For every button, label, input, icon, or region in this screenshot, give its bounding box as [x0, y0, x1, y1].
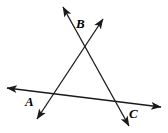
geometry-figure: A B C: [0, 0, 168, 133]
vertex-label-b: B: [76, 17, 85, 30]
line-through-A-and-B: [37, 19, 103, 119]
vertex-label-a: A: [25, 95, 34, 108]
line-through-C-and-B: [63, 7, 129, 126]
vertex-label-c: C: [129, 107, 138, 120]
